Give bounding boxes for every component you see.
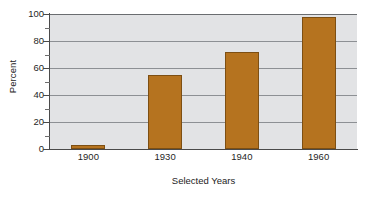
y-axis-tick-labels: 020406080100 <box>20 14 44 149</box>
bar-chart-figure: Percent 020406080100 1900193019401960 Se… <box>0 0 366 200</box>
bar <box>225 52 259 149</box>
y-axis-major-tick <box>43 122 50 123</box>
x-axis-tick-labels: 1900193019401960 <box>50 152 357 168</box>
x-axis-tick-label: 1900 <box>78 152 99 162</box>
bar <box>302 17 336 149</box>
y-axis-major-tick <box>43 41 50 42</box>
y-axis-major-tick <box>43 14 50 15</box>
plot-area <box>50 14 357 149</box>
y-axis-title-text: Percent <box>8 59 19 92</box>
x-axis-line <box>49 149 358 150</box>
y-axis-major-tick <box>43 95 50 96</box>
plot-top-border <box>50 14 357 15</box>
x-axis-tick-label: 1930 <box>155 152 176 162</box>
x-axis-tick-label: 1940 <box>231 152 252 162</box>
bar <box>148 75 182 149</box>
x-axis-tick-label: 1960 <box>308 152 329 162</box>
x-axis-title: Selected Years <box>50 175 357 186</box>
y-axis-major-tick <box>43 68 50 69</box>
y-axis-tick-label: 100 <box>28 9 44 19</box>
